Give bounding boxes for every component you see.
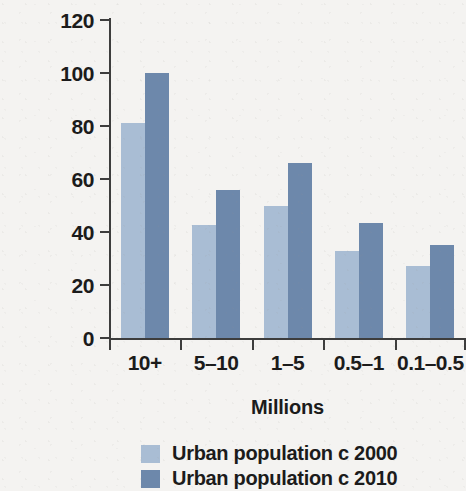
x-axis-tick-mark <box>252 340 254 350</box>
bar <box>145 73 169 338</box>
bar <box>406 266 430 338</box>
chart-legend: Urban population c 2000Urban population … <box>141 441 466 491</box>
bar <box>359 223 383 338</box>
y-axis-tick-label: 0 <box>48 328 94 349</box>
x-axis-tick-label: 10+ <box>109 352 180 373</box>
x-axis-tick-label: 5–10 <box>180 352 251 373</box>
legend-color-swatch <box>141 445 160 463</box>
x-axis-title: Millions <box>109 396 466 419</box>
y-axis-tick-mark <box>100 337 109 339</box>
y-axis-tick-mark <box>100 231 109 233</box>
y-axis-tick-label: 60 <box>48 169 94 190</box>
bar <box>216 190 240 338</box>
x-axis-tick-mark <box>395 340 397 350</box>
y-axis-tick-mark <box>100 125 109 127</box>
x-axis-tick-label: 1–5 <box>252 352 323 373</box>
bar <box>192 225 216 338</box>
y-axis-tick-label: 100 <box>48 63 94 84</box>
y-axis-tick-label: 80 <box>48 116 94 137</box>
y-axis-tick-label: 20 <box>48 275 94 296</box>
y-axis-tick-mark <box>100 284 109 286</box>
legend-label: Urban population c 2010 <box>172 467 397 490</box>
y-axis-tick-mark <box>100 178 109 180</box>
legend-color-swatch <box>141 470 160 488</box>
y-axis-tick-label: 40 <box>48 222 94 243</box>
x-axis-tick-mark <box>323 340 325 350</box>
y-axis-tick-labels: 020406080100120 <box>44 0 94 491</box>
legend-label: Urban population c 2000 <box>172 442 397 465</box>
y-axis-tick-label: 120 <box>48 10 94 31</box>
bar <box>430 245 454 338</box>
bar <box>288 163 312 338</box>
bar-chart-figure: Population (millions) 020406080100120 10… <box>0 0 466 491</box>
x-axis-tick-label: 0.5–1 <box>323 352 394 373</box>
y-axis-tick-mark <box>100 19 109 21</box>
bar <box>121 123 145 338</box>
x-axis-tick-labels: 10+5–101–50.5–10.1–0.5 <box>109 352 466 382</box>
y-axis-line <box>109 18 111 340</box>
legend-item: Urban population c 2010 <box>141 466 466 491</box>
x-axis-tick-mark <box>109 340 111 350</box>
x-axis-tick-label: 0.1–0.5 <box>395 352 466 373</box>
x-axis-tick-mark <box>180 340 182 350</box>
x-axis-line <box>109 338 466 340</box>
bar <box>335 251 359 338</box>
bar <box>264 206 288 339</box>
y-axis-tick-mark <box>100 72 109 74</box>
plot-area <box>109 20 466 338</box>
legend-item: Urban population c 2000 <box>141 441 466 466</box>
